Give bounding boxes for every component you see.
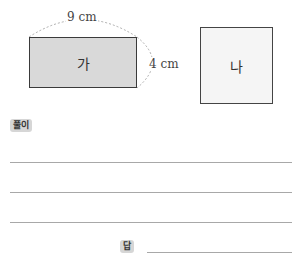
shape-label-na: 나 xyxy=(201,56,272,76)
answer-line[interactable] xyxy=(147,252,292,253)
height-label: 4 cm xyxy=(148,57,180,71)
answer-badge: 답 xyxy=(120,240,134,253)
solution-badge: 풀이 xyxy=(10,119,32,132)
shape-label-ga: 가 xyxy=(30,53,136,73)
rectangle-ga: 가 xyxy=(29,37,137,88)
square-na: 나 xyxy=(200,27,273,104)
solution-line-3[interactable] xyxy=(10,222,292,223)
width-label: 9 cm xyxy=(66,10,98,24)
solution-line-2[interactable] xyxy=(10,192,292,193)
solution-line-1[interactable] xyxy=(10,162,292,163)
